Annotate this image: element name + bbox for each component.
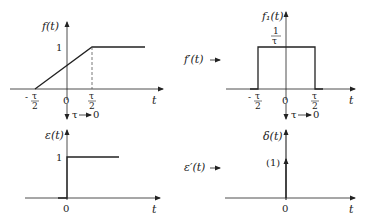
level-den: τ <box>272 36 277 46</box>
panel-delta: ε′(t) δ(t) (1) 0 t <box>184 130 355 216</box>
y-label: f₁(t) <box>261 10 283 23</box>
tick-num: τ <box>89 91 94 101</box>
side-label: ε′(t) <box>184 161 205 174</box>
tick-sign: - <box>248 92 251 102</box>
x-label: t <box>152 94 157 107</box>
tick-num: τ <box>32 91 37 101</box>
level-label: 1 <box>56 42 62 53</box>
limit-var: τ <box>291 109 297 120</box>
impulse-weight: (1) <box>266 157 280 168</box>
tick-den: 2 <box>255 101 261 111</box>
panel-step: ε(t) 1 0 t <box>25 129 160 216</box>
diagram-svg: f(t) 1 t - τ 2 0 τ 2 τ 0 f′(t) f₁(t) 1 τ… <box>0 0 365 221</box>
tick-sign: - <box>25 92 28 102</box>
panel-f-ramp: f(t) 1 t - τ 2 0 τ 2 <box>10 20 163 111</box>
panel-f-derivative: f′(t) f₁(t) 1 τ t - τ 2 0 τ 2 <box>183 10 355 111</box>
rect-pulse <box>250 47 323 89</box>
tick-num: τ <box>255 91 260 101</box>
limit-target: 0 <box>93 109 99 120</box>
tick-origin: 0 <box>63 95 69 106</box>
tick-den: 2 <box>32 101 38 111</box>
limit-target: 0 <box>313 109 319 120</box>
tick-origin: 0 <box>282 95 288 106</box>
y-label: f(t) <box>41 20 59 33</box>
tick-origin: 0 <box>282 203 288 214</box>
diagram-canvas: f(t) 1 t - τ 2 0 τ 2 τ 0 f′(t) f₁(t) 1 τ… <box>0 0 365 221</box>
step-curve <box>58 157 119 198</box>
x-label: t <box>349 203 354 216</box>
level-num: 1 <box>273 26 279 36</box>
tick-num: τ <box>312 91 317 101</box>
y-label: δ(t) <box>263 130 283 143</box>
ramp-curve <box>35 47 145 89</box>
x-label: t <box>152 203 157 216</box>
side-label: f′(t) <box>183 53 204 66</box>
level-label: 1 <box>56 152 62 163</box>
tick-origin: 0 <box>63 203 69 214</box>
limit-var: τ <box>72 109 78 120</box>
x-label: t <box>349 94 354 107</box>
y-label: ε(t) <box>45 129 64 142</box>
